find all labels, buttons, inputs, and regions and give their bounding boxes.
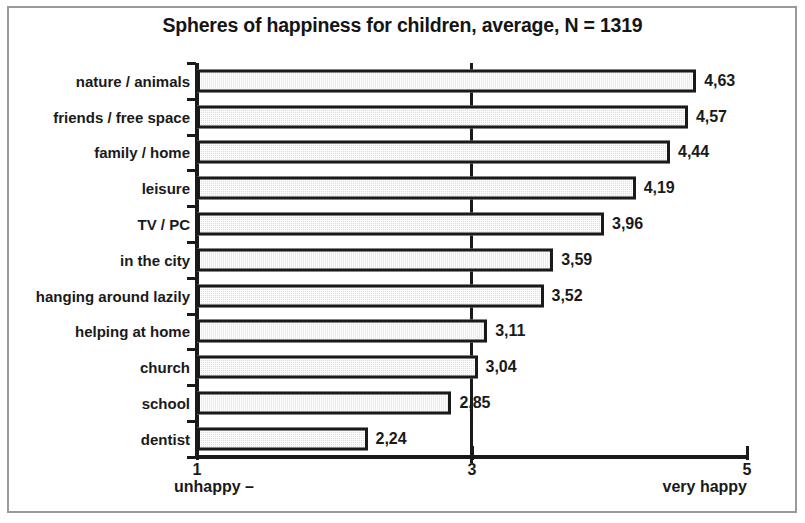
category-label: church <box>140 359 190 376</box>
category-label: school <box>142 394 190 411</box>
bar <box>197 248 553 271</box>
bar-value-label: 3,96 <box>612 215 643 233</box>
bar-row: TV / PC3,96 <box>0 206 805 242</box>
category-label: nature / animals <box>76 72 190 89</box>
bar-row: leisure4,19 <box>0 170 805 206</box>
x-axis-tick <box>196 446 199 460</box>
bar <box>197 320 487 343</box>
bar <box>197 284 544 307</box>
bar <box>197 141 670 164</box>
bar-row: friends / free space4,57 <box>0 99 805 135</box>
bar <box>197 212 604 235</box>
x-axis-tick <box>471 446 474 460</box>
category-label: leisure <box>142 180 190 197</box>
bar-row: nature / animals4,63 <box>0 63 805 99</box>
bar <box>197 105 688 128</box>
category-label: in the city <box>120 251 190 268</box>
x-axis-tick <box>746 446 749 460</box>
category-label: TV / PC <box>137 215 190 232</box>
bar <box>197 427 368 450</box>
bar-value-label: 2,85 <box>459 394 490 412</box>
bar <box>197 356 478 379</box>
category-label: dentist <box>141 430 190 447</box>
bar-row: helping at home3,11 <box>0 314 805 350</box>
bar-value-label: 4,44 <box>678 143 709 161</box>
bar-value-label: 4,63 <box>704 72 735 90</box>
category-label: helping at home <box>75 323 190 340</box>
bar-value-label: 4,57 <box>696 108 727 126</box>
category-label: friends / free space <box>53 108 190 125</box>
bar-row: family / home4,44 <box>0 135 805 171</box>
category-label: family / home <box>94 144 190 161</box>
axis-endcap-right-label: very happy <box>663 478 747 496</box>
x-axis-tick-label: 1 <box>193 461 202 479</box>
bar-value-label: 3,59 <box>561 251 592 269</box>
bar <box>197 177 636 200</box>
bar <box>197 69 696 92</box>
bar-value-label: 3,11 <box>495 322 525 340</box>
bar-row: dentist2,24 <box>0 421 805 457</box>
axis-endcap-left-label: unhappy – <box>174 478 254 496</box>
bar-value-label: 4,19 <box>644 179 675 197</box>
bar <box>197 391 451 414</box>
bar-value-label: 2,24 <box>376 430 407 448</box>
bar-value-label: 3,04 <box>486 358 517 376</box>
x-axis-tick-label: 3 <box>468 461 477 479</box>
x-axis-tick-label: 5 <box>743 461 752 479</box>
bar-row: hanging around lazily3,52 <box>0 278 805 314</box>
bar-row: in the city3,59 <box>0 242 805 278</box>
bar-row: church3,04 <box>0 349 805 385</box>
chart-figure: Spheres of happiness for children, avera… <box>0 0 805 523</box>
bar-value-label: 3,52 <box>552 287 583 305</box>
bar-row: school2,85 <box>0 385 805 421</box>
category-label: hanging around lazily <box>36 287 190 304</box>
